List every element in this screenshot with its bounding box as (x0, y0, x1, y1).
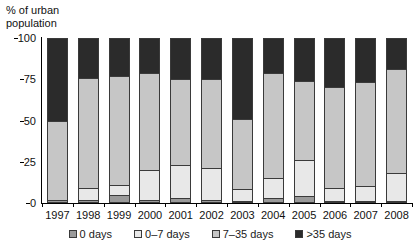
bar-segment[interactable] (263, 198, 284, 203)
y-axis-tick-mark (20, 79, 24, 80)
bar-segment[interactable] (355, 38, 376, 83)
y-axis-tick-mark (20, 162, 24, 163)
legend-item[interactable]: >35 days (295, 228, 351, 240)
bar-segment[interactable] (294, 160, 315, 196)
legend-label: >35 days (306, 228, 351, 240)
bar-segment[interactable] (232, 201, 253, 203)
x-axis-tick-mark (227, 203, 228, 207)
legend-item[interactable]: 0–7 days (134, 228, 190, 240)
bar-segment[interactable] (263, 178, 284, 198)
bar-segment[interactable] (170, 198, 191, 203)
x-axis-tick-label: 1997 (42, 209, 73, 221)
bar-segment[interactable] (78, 200, 99, 203)
bar-segment[interactable] (201, 79, 222, 168)
bar-segment[interactable] (324, 38, 345, 88)
bar-segment[interactable] (386, 69, 407, 173)
stacked-bar[interactable] (47, 38, 68, 203)
bar-segment[interactable] (232, 38, 253, 119)
y-axis-tick-mark (20, 121, 24, 122)
x-axis-tick-label: 2002 (196, 209, 227, 221)
y-axis-tick-label: 0 (30, 197, 42, 209)
y-axis-tick-label: 25 (24, 156, 42, 168)
bar-segment[interactable] (78, 188, 99, 200)
stacked-bar[interactable] (386, 38, 407, 203)
bar-segment[interactable] (109, 185, 130, 195)
bar-segment[interactable] (109, 195, 130, 203)
x-axis-tick-label: 2000 (135, 209, 166, 221)
bar-segment[interactable] (139, 200, 160, 203)
x-axis-tick-label: 2003 (227, 209, 258, 221)
bar-segment[interactable] (170, 79, 191, 165)
bar-segment[interactable] (294, 196, 315, 203)
x-axis-tick-label: 2004 (258, 209, 289, 221)
x-axis-tick-mark (42, 203, 43, 207)
bar-segment[interactable] (201, 200, 222, 203)
plot-area: 0255075100 (42, 38, 412, 203)
y-axis-tick-label: 75 (24, 73, 42, 85)
bar-segment[interactable] (139, 73, 160, 170)
x-axis-tick-mark (289, 203, 290, 207)
x-axis-tick-label: 2006 (320, 209, 351, 221)
x-axis-tick-mark (196, 203, 197, 207)
bar-segment[interactable] (324, 201, 345, 203)
legend-item[interactable]: 7–35 days (212, 228, 274, 240)
stacked-bar[interactable] (355, 38, 376, 203)
bar-segment[interactable] (139, 38, 160, 73)
bar-group (139, 38, 160, 203)
legend-swatch-icon (212, 230, 220, 238)
bar-segment[interactable] (139, 170, 160, 200)
bar-segment[interactable] (47, 121, 68, 200)
bar-segment[interactable] (263, 38, 284, 73)
x-axis-tick-mark (381, 203, 382, 207)
bar-segment[interactable] (78, 38, 99, 78)
x-axis-tick-mark (73, 203, 74, 207)
bar-group (201, 38, 222, 203)
x-axis-tick-label: 2001 (165, 209, 196, 221)
x-axis-tick-label: 1998 (73, 209, 104, 221)
legend-item[interactable]: 0 days (69, 228, 112, 240)
stacked-bar[interactable] (294, 38, 315, 203)
stacked-bar[interactable] (139, 38, 160, 203)
bar-segment[interactable] (109, 76, 130, 185)
bar-group (170, 38, 191, 203)
bar-segment[interactable] (263, 73, 284, 179)
bar-segment[interactable] (170, 165, 191, 198)
bar-segment[interactable] (355, 201, 376, 203)
x-axis-tick-mark (350, 203, 351, 207)
bar-segment[interactable] (47, 200, 68, 203)
bar-segment[interactable] (294, 38, 315, 81)
bar-segment[interactable] (109, 38, 130, 76)
stacked-bar[interactable] (263, 38, 284, 203)
legend-swatch-icon (134, 230, 142, 238)
bar-segment[interactable] (232, 119, 253, 190)
bar-segment[interactable] (201, 38, 222, 79)
x-axis-tick-mark (258, 203, 259, 207)
stacked-bar[interactable] (324, 38, 345, 203)
chart-legend: 0 days0–7 days7–35 days>35 days (0, 228, 420, 240)
bar-segment[interactable] (386, 38, 407, 69)
y-axis-tick-mark (26, 203, 30, 204)
bar-segment[interactable] (324, 188, 345, 201)
bar-segment[interactable] (232, 189, 253, 201)
bar-segment[interactable] (386, 173, 407, 201)
bar-segment[interactable] (47, 38, 68, 121)
stacked-bar[interactable] (232, 38, 253, 203)
bar-segment[interactable] (355, 82, 376, 186)
bar-segment[interactable] (201, 168, 222, 199)
bar-segment[interactable] (294, 81, 315, 160)
stacked-bar[interactable] (78, 38, 99, 203)
stacked-bar[interactable] (170, 38, 191, 203)
stacked-bar[interactable] (201, 38, 222, 203)
x-axis-tick-label: 2007 (350, 209, 381, 221)
stacked-bar[interactable] (109, 38, 130, 203)
legend-label: 7–35 days (223, 228, 274, 240)
bar-segment[interactable] (386, 201, 407, 203)
legend-swatch-icon (295, 230, 303, 238)
bar-segment[interactable] (78, 78, 99, 189)
bar-segment[interactable] (355, 186, 376, 201)
bar-segment[interactable] (170, 38, 191, 79)
y-axis-tick-label: 50 (24, 115, 42, 127)
bar-group (263, 38, 284, 203)
x-axis-tick-label: 1999 (104, 209, 135, 221)
bar-segment[interactable] (324, 87, 345, 188)
